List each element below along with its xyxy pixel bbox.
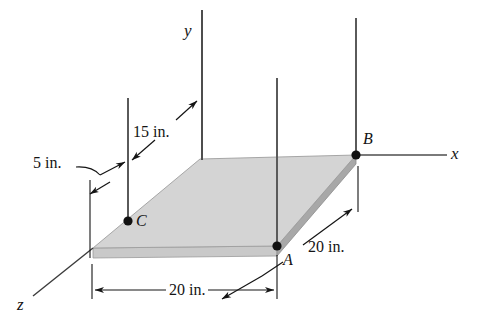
dim15-arrow-up <box>176 101 197 120</box>
dim5-arrow-right <box>100 162 125 175</box>
y-axis-label: y <box>184 22 192 39</box>
dimension-label-width-right: 20 in. <box>308 239 344 255</box>
point-b-label: B <box>363 131 373 147</box>
point-c-marker <box>123 216 132 225</box>
leader-5in <box>76 167 100 175</box>
diagram-canvas <box>0 0 480 329</box>
dim5-arrow-left <box>90 182 110 194</box>
dim-arrow-down <box>222 276 262 299</box>
z-axis-line <box>33 248 93 296</box>
z-axis-label: z <box>17 296 24 313</box>
plate-statics-diagram: y x z A B C 20 in. 20 in. 15 in. 5 in. <box>0 0 480 329</box>
dim-leader-down <box>262 262 283 276</box>
dimension-label-offset-cable: 15 in. <box>133 124 169 140</box>
dimension-label-offset-edge: 5 in. <box>33 155 61 171</box>
x-axis-label: x <box>451 145 459 162</box>
dimension-label-depth-bottom: 20 in. <box>166 282 208 298</box>
point-b-marker <box>351 150 360 159</box>
point-c-label: C <box>136 213 147 229</box>
point-a-label: A <box>283 252 293 268</box>
dim15-arrow-down <box>132 140 155 160</box>
point-a-marker <box>272 241 281 250</box>
